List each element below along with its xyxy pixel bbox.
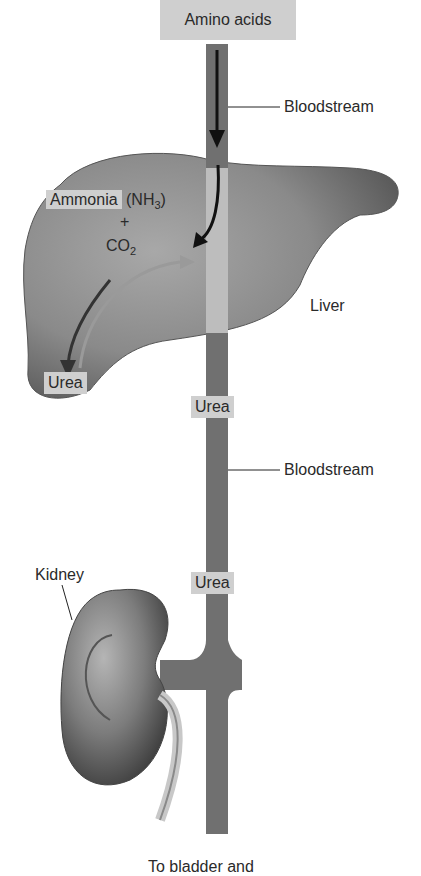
kidney-pointer	[62, 585, 72, 620]
urea-label-blood-1: Urea	[191, 396, 234, 418]
co2-subscript: 2	[130, 245, 136, 257]
nh3-suffix: )	[161, 191, 166, 208]
co2-label: CO2	[106, 236, 136, 257]
amino-acids-box: Amino acids	[160, 0, 296, 40]
co2-prefix: CO	[106, 237, 130, 254]
ammonia-label: Ammonia	[46, 190, 122, 209]
nh3-subscript: 3	[154, 199, 160, 211]
kidney-shape	[61, 589, 168, 785]
urea-label-liver: Urea	[44, 372, 87, 394]
liver-label: Liver	[310, 296, 345, 316]
bottom-caption-partial: To bladder and	[148, 857, 254, 876]
nh3-prefix: (NH	[126, 191, 154, 208]
bloodstream-label-mid: Bloodstream	[284, 460, 374, 480]
urea-label-blood-2: Urea	[191, 572, 234, 594]
bloodstream-label-top: Bloodstream	[284, 97, 374, 117]
kidney-label: Kidney	[35, 565, 84, 585]
renal-vessel	[160, 640, 206, 690]
bloodstream-vessel	[206, 44, 228, 834]
ammonia-formula: Ammonia (NH3)	[46, 190, 166, 211]
plus-sign: +	[120, 212, 129, 232]
